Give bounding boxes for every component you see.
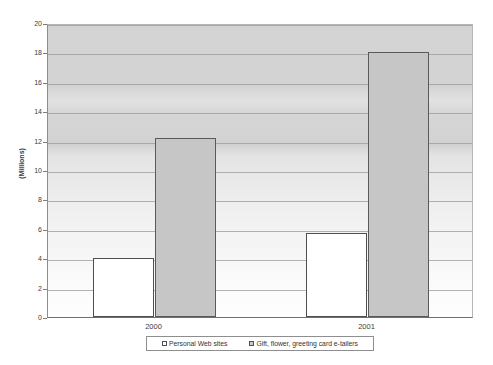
x-tick-label-2000: 2000 [145,322,162,331]
y-axis-title: (Millions) [18,134,25,194]
plot-area [47,24,473,318]
y-tick-label-4: 4 [38,255,42,263]
bar-2000-series-1[interactable] [155,138,217,317]
y-tick-label-12: 12 [34,138,42,146]
legend-swatch-gift-flower-greeting-card-e-tailers [249,341,254,346]
y-tick-label-8: 8 [38,196,42,204]
legend-label-gift-flower-greeting-card-e-tailers: Gift, flower, greeting card e-tailers [256,340,358,348]
y-tick-0 [43,318,47,319]
y-tick-label-20: 20 [34,20,42,28]
bar-chart: 02468101214161820 (Millions) 20002001 Pe… [0,0,493,365]
legend-entry-1[interactable]: Gift, flower, greeting card e-tailers [249,340,358,348]
bar-2001-series-0[interactable] [306,233,368,317]
y-tick-label-14: 14 [34,108,42,116]
bar-2001-series-1[interactable] [368,52,430,317]
y-tick-label-10: 10 [34,167,42,175]
y-tick-label-18: 18 [34,49,42,57]
gridline-20 [48,25,472,26]
legend-label-personal-web-sites: Personal Web sites [169,340,227,348]
chart-title [0,0,493,1]
y-tick-label-16: 16 [34,79,42,87]
bar-2000-series-0[interactable] [93,258,155,317]
legend: Personal Web sites Gift, flower, greetin… [146,336,374,351]
legend-entry-0[interactable]: Personal Web sites [162,340,227,348]
y-tick-label-0: 0 [38,314,42,322]
y-tick-label-6: 6 [38,226,42,234]
legend-swatch-personal-web-sites [162,341,167,346]
x-tick-label-2001: 2001 [358,322,375,331]
y-tick-label-2: 2 [38,285,42,293]
